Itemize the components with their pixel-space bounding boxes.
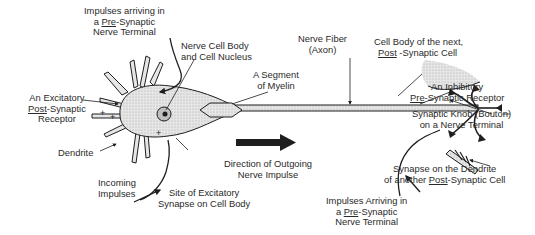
- svg-text:+: +: [156, 128, 161, 138]
- label-incoming-impulses: Incoming Impulses: [98, 178, 136, 199]
- label-inhibitory-receptor: An Inhibitory Pre-Synaptic Receptor: [410, 82, 504, 103]
- label-impulses-presynaptic-top: Impulses arriving in a Pre-Synaptic Nerv…: [84, 6, 165, 38]
- label-myelin-segment: A Segment of Myelin: [253, 70, 299, 91]
- label-dendrite: Dendrite: [58, 148, 93, 159]
- label-direction-impulse: Direction of Outgoing Nerve Impulse: [224, 159, 312, 180]
- svg-text:+: +: [110, 112, 115, 122]
- label-synaptic-knob: Synaptic Knob (Bouton) on a Nerve Termin…: [412, 109, 511, 130]
- direction-arrow-head: [280, 134, 296, 151]
- svg-text:+: +: [100, 108, 105, 118]
- label-excitatory-receptor: An Excitatory Post-Synaptic Receptor: [28, 93, 86, 125]
- label-synapse-on-dendrite: Synapse on the Dendrite of another Post-…: [384, 164, 505, 185]
- impulse-arrow-top: [160, 38, 181, 92]
- neuron-diagram: + + + - Impulses arriving in a Pre-Synap…: [0, 0, 535, 235]
- label-excitatory-synapse-site: Site of Excitatory Synapse on Cell Body: [158, 188, 250, 209]
- label-axon: Nerve Fiber (Axon): [298, 34, 347, 55]
- label-next-postsynaptic-cell: Cell Body of the next, Post -Synaptic Ce…: [374, 37, 463, 58]
- myelin-segment: [200, 103, 242, 117]
- label-impulses-presynaptic-bottom: Impulses Arriving in a Pre-Synaptic Nerv…: [326, 196, 407, 228]
- label-cell-body-nucleus: Nerve Cell Body and Cell Nucleus: [181, 41, 252, 62]
- direction-arrow-shaft: [236, 139, 280, 146]
